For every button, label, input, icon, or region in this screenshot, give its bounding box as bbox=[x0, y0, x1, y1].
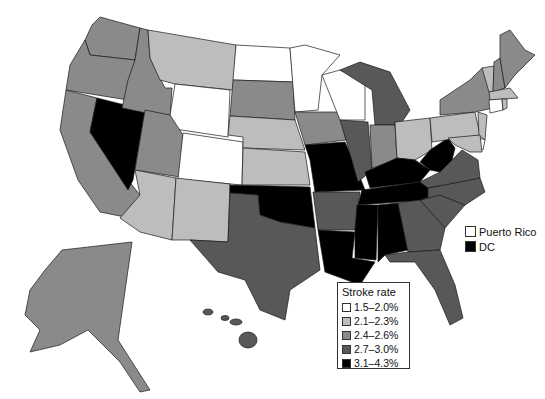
map-legend: Stroke rate 1.5–2.0% 2.1–2.3% 2.4–2.6% 2… bbox=[337, 282, 410, 369]
legend-swatch bbox=[342, 331, 351, 340]
state-ND bbox=[233, 45, 293, 82]
puerto-rico-swatch bbox=[465, 226, 476, 237]
territory-item-puerto-rico: Puerto Rico bbox=[465, 224, 536, 239]
state-NM bbox=[172, 178, 230, 242]
legend-item: 3.1–4.3% bbox=[342, 356, 405, 370]
us-choropleth-map bbox=[0, 0, 545, 399]
state-CT bbox=[489, 99, 503, 113]
legend-swatch bbox=[342, 317, 351, 326]
legend-item: 2.7–3.0% bbox=[342, 342, 405, 356]
state-RI bbox=[502, 99, 507, 110]
legend-label: 1.5–2.0% bbox=[354, 301, 398, 313]
state-ME bbox=[500, 30, 535, 88]
state-MS bbox=[355, 205, 378, 260]
legend-label: 2.4–2.6% bbox=[354, 329, 398, 341]
legend-swatch bbox=[342, 345, 351, 354]
legend-title: Stroke rate bbox=[342, 286, 405, 299]
state-HI bbox=[203, 309, 257, 348]
territory-legend: Puerto Rico DC bbox=[465, 224, 536, 254]
legend-swatch bbox=[342, 303, 351, 312]
dc-swatch bbox=[465, 241, 476, 252]
legend-item: 2.1–2.3% bbox=[342, 314, 405, 328]
legend-label: 3.1–4.3% bbox=[354, 357, 398, 369]
state-IA bbox=[295, 112, 346, 145]
state-SD bbox=[230, 80, 295, 120]
legend-item: 2.4–2.6% bbox=[342, 328, 405, 342]
state-OH bbox=[395, 118, 432, 160]
legend-label: 2.7–3.0% bbox=[354, 343, 398, 355]
state-CO bbox=[178, 133, 243, 185]
state-WA bbox=[85, 17, 140, 60]
state-AR bbox=[313, 192, 360, 230]
legend-item: 1.5–2.0% bbox=[342, 300, 405, 314]
legend-swatch bbox=[342, 359, 351, 368]
state-KS bbox=[242, 148, 310, 185]
legend-label: 2.1–2.3% bbox=[354, 315, 398, 327]
dc-label: DC bbox=[479, 241, 495, 253]
territory-item-dc: DC bbox=[465, 239, 536, 254]
state-AK bbox=[25, 242, 150, 392]
puerto-rico-label: Puerto Rico bbox=[479, 226, 536, 238]
